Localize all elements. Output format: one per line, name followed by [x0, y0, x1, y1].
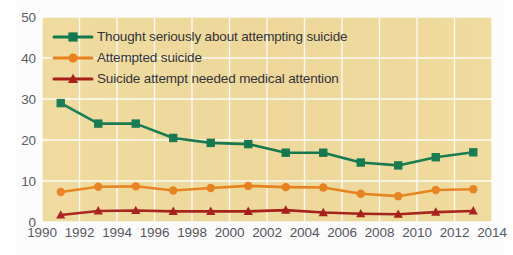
y-tick-label: 40	[0, 51, 36, 66]
y-tick-label: 50	[0, 10, 36, 25]
data-point-marker	[244, 140, 252, 148]
chart-legend: Thought seriously about attempting suici…	[52, 26, 347, 89]
legend-label: Thought seriously about attempting suici…	[97, 29, 347, 44]
data-point-marker	[94, 183, 102, 191]
y-tick-label: 10	[0, 174, 36, 189]
data-point-marker	[282, 149, 290, 157]
data-point-marker	[432, 153, 440, 161]
x-tick-label: 2000	[215, 225, 245, 240]
x-tick-label: 2006	[327, 225, 357, 240]
legend-label: Suicide attempt needed medical attention	[97, 71, 339, 86]
data-point-marker	[132, 182, 140, 190]
legend-marker-triangle-icon	[52, 71, 94, 87]
legend-item-3[interactable]: Suicide attempt needed medical attention	[52, 68, 347, 89]
data-point-marker	[469, 185, 477, 193]
data-point-marker	[469, 148, 477, 156]
x-tick-label: 1992	[65, 225, 95, 240]
data-point-marker	[244, 182, 252, 190]
x-tick-label: 1996	[140, 225, 170, 240]
data-point-marker	[207, 139, 215, 147]
data-point-marker	[207, 184, 215, 192]
data-point-marker	[68, 32, 77, 41]
legend-marker-square-icon	[52, 29, 94, 45]
x-tick-label: 2012	[440, 225, 470, 240]
x-tick-label: 1990	[27, 225, 57, 240]
x-tick-label: 1994	[102, 225, 132, 240]
data-point-marker	[57, 99, 65, 107]
data-point-marker	[282, 183, 290, 191]
x-tick-label: 1998	[177, 225, 207, 240]
y-tick-label: 20	[0, 133, 36, 148]
data-point-marker	[169, 134, 177, 142]
data-point-marker	[319, 183, 327, 191]
x-tick-label: 2004	[290, 225, 320, 240]
x-tick-label: 2014	[477, 225, 507, 240]
data-point-marker	[68, 53, 77, 62]
x-tick-label: 2008	[365, 225, 395, 240]
data-point-marker	[432, 186, 440, 194]
data-point-marker	[357, 190, 365, 198]
legend-item-1[interactable]: Thought seriously about attempting suici…	[52, 26, 347, 47]
data-point-marker	[169, 186, 177, 194]
legend-marker-circle-icon	[52, 50, 94, 66]
data-point-marker	[132, 119, 140, 127]
line-chart-figure: 01020304050 1990199219941996199820002002…	[0, 0, 513, 255]
legend-item-2[interactable]: Attempted suicide	[52, 47, 347, 68]
data-point-marker	[57, 188, 65, 196]
data-point-marker	[394, 192, 402, 200]
data-point-marker	[319, 149, 327, 157]
data-point-marker	[394, 161, 402, 169]
y-tick-label: 30	[0, 92, 36, 107]
x-tick-label: 2002	[252, 225, 282, 240]
legend-label: Attempted suicide	[97, 50, 202, 65]
data-point-marker	[94, 119, 102, 127]
x-tick-label: 2010	[402, 225, 432, 240]
data-point-marker	[357, 158, 365, 166]
